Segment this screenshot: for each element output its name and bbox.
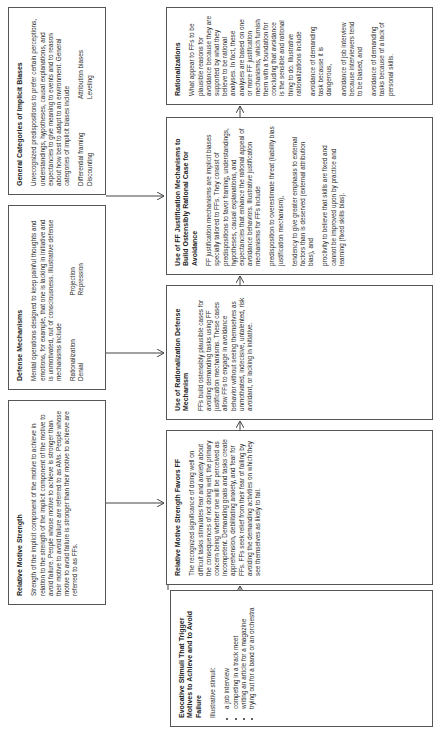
- box-evocative-stimuli: Evocative Stimuli That Trigger Motives t…: [170, 590, 433, 727]
- box-body: FFs build ostensibly plausible cases for…: [197, 294, 254, 411]
- box-relative-motive-strength: Relative Motive Strength Strength of the…: [8, 400, 106, 605]
- stimuli-list: a job interview competing in a track mee…: [223, 599, 256, 718]
- box-use-of-rationalization: Use of Rationalization Defense Mechanism…: [166, 285, 433, 420]
- box-title: Use of FF Justification Mechanisms to Bu…: [174, 126, 199, 266]
- box-body: FF justification mechanisms are implicit…: [205, 126, 262, 266]
- example-item: Denial: [77, 300, 85, 382]
- list-item: a job interview: [223, 599, 231, 709]
- rationalization-item: avoidance of job interview because inter…: [340, 16, 365, 96]
- box-title: Defense Mechanisms: [16, 214, 24, 381]
- list-item: writing an article for a magazine: [240, 599, 248, 709]
- rationalization-item: avoidance of demanding task because it i…: [309, 16, 334, 96]
- box-title: General Categories of Implicit Biases: [16, 16, 24, 186]
- examples-list: Differential framing Discounting Attribu…: [77, 16, 93, 186]
- examples-list: Rationalization Denial Projection Repres…: [69, 214, 85, 381]
- box-body: What appear to FFs to be plausible reaso…: [188, 16, 303, 96]
- list-item: competing in a track meet: [232, 599, 240, 709]
- box-body: Unrecognized predispositions to prefer c…: [30, 16, 71, 186]
- mechanism-item: tendency to give greater emphasis to ext…: [291, 126, 316, 266]
- rationalization-item: avoidance of demanding tasks because of …: [370, 16, 395, 96]
- example-item: Differential framing: [77, 103, 85, 186]
- box-title: Evocative Stimuli That Trigger Motives t…: [178, 599, 203, 718]
- box-rationalizations: Rationalizations What appear to FFs to b…: [166, 7, 433, 105]
- box-title: Use of Rationalization Defense Mechanism: [174, 294, 191, 411]
- mechanism-item: proclivity to believe that skills are fi…: [321, 126, 346, 266]
- box-title: Relative Motive Strength Favors FF: [174, 439, 182, 576]
- box-title: Relative Motive Strength: [16, 409, 24, 596]
- example-item: Rationalization: [69, 300, 77, 382]
- example-item: Repression: [77, 214, 85, 296]
- flow-diagram: Relative Motive Strength Strength of the…: [0, 0, 439, 729]
- box-defense-mechanisms: Defense Mechanisms Mental operations des…: [8, 205, 106, 390]
- list-item: trying out for a band or an orchestra: [248, 599, 256, 709]
- box-general-categories-implicit-biases: General Categories of Implicit Biases Un…: [8, 7, 106, 195]
- box-relative-favors-ff: Relative Motive Strength Favors FF The r…: [166, 430, 433, 585]
- example-item: Discounting: [86, 103, 94, 186]
- mechanism-item: predisposition to overestimate threat (l…: [268, 126, 284, 266]
- example-item: Projection: [69, 214, 77, 296]
- box-body: Mental operations designed to keep painf…: [30, 214, 63, 381]
- box-body: Strength of the implicit component of th…: [30, 409, 79, 596]
- box-body: The recognized significance of doing wel…: [188, 439, 262, 576]
- example-item: Leveling: [86, 16, 94, 99]
- example-item: Attribution biases: [77, 16, 85, 99]
- box-title: Rationalizations: [174, 16, 182, 96]
- box-ff-justification: Use of FF Justification Mechanisms to Bu…: [166, 117, 433, 275]
- box-intro: Illustrative stimuli:: [209, 599, 217, 718]
